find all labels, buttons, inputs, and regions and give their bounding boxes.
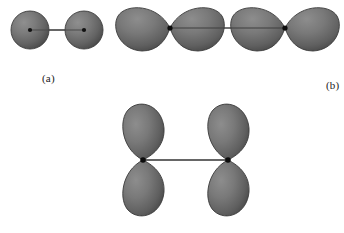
p-lobe-atom1-left — [116, 8, 170, 51]
nucleus-dot-right — [82, 28, 86, 32]
p-lobe-atom2-upper — [208, 104, 249, 160]
nucleus-dot-atom1 — [167, 25, 172, 30]
panel-b-drawing — [112, 0, 344, 100]
p-lobe-atom1-right — [170, 8, 224, 51]
nucleus-dot-atom2 — [282, 25, 287, 30]
nucleus-dot-left — [28, 28, 32, 32]
p-lobe-atom2-lower — [208, 160, 249, 216]
nucleus-dot-atom2 — [225, 157, 231, 163]
orbital-overlap-figure: (a) (b) — [0, 0, 344, 233]
p-lobe-atom1-upper — [123, 104, 164, 160]
panel-b-p-orbital-sigma-overlap: (b) — [112, 0, 344, 100]
p-lobe-atom2-left — [231, 8, 285, 51]
p-lobe-atom1-lower — [123, 160, 164, 216]
p-lobe-atom2-right — [285, 8, 339, 51]
panel-b-label: (b) — [326, 79, 339, 91]
panel-a-s-orbital-overlap: (a) — [0, 0, 115, 100]
panel-c-p-orbital-pi-overlap: (c) — [118, 100, 263, 233]
nucleus-dot-atom1 — [140, 157, 146, 163]
panel-c-drawing — [118, 100, 263, 233]
panel-a-drawing — [0, 0, 115, 100]
panel-a-label: (a) — [42, 72, 55, 84]
